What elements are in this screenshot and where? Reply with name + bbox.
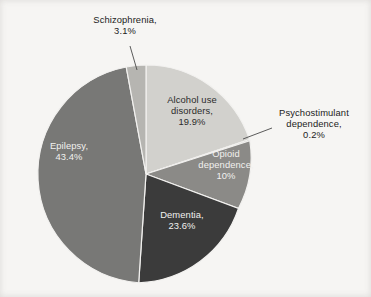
- pie-label-alcohol-value: 19.9%: [148, 116, 236, 127]
- pie-label-alcohol-line1: Alcohol use: [148, 94, 236, 105]
- pie-label-schizophrenia-line1: Schizophrenia,: [73, 14, 177, 25]
- pie-chart-figure: Alcohol use disorders, 19.9% Opioid depe…: [0, 0, 371, 297]
- pie-label-opioid-value: 10%: [186, 170, 266, 181]
- pie-label-epilepsy-value: 43.4%: [27, 151, 111, 162]
- pie-label-psychostimulant-dependence: Psychostimulant dependence, 0.2%: [262, 107, 366, 140]
- pie-label-epilepsy-line1: Epilepsy,: [27, 140, 111, 151]
- pie-label-opioid-line2: dependence,: [186, 159, 266, 170]
- pie-label-schizophrenia-value: 3.1%: [73, 25, 177, 36]
- pie-label-psychostimulant-value: 0.2%: [262, 129, 366, 140]
- pie-label-dementia: Dementia, 23.6%: [140, 209, 224, 231]
- pie-slice-epilepsy[interactable]: [38, 67, 146, 283]
- pie-label-dementia-line1: Dementia,: [140, 209, 224, 220]
- pie-label-epilepsy: Epilepsy, 43.4%: [27, 140, 111, 162]
- pie-label-opioid-line1: Opioid: [186, 148, 266, 159]
- pie-label-schizophrenia: Schizophrenia, 3.1%: [73, 14, 177, 36]
- pie-label-alcohol-line2: disorders,: [148, 105, 236, 116]
- pie-label-psychostimulant-line1: Psychostimulant: [262, 107, 366, 118]
- pie-label-alcohol-use-disorders: Alcohol use disorders, 19.9%: [148, 94, 236, 127]
- pie-label-psychostimulant-line2: dependence,: [262, 118, 366, 129]
- pie-label-dementia-value: 23.6%: [140, 220, 224, 231]
- pie-label-opioid-dependence: Opioid dependence, 10%: [186, 148, 266, 181]
